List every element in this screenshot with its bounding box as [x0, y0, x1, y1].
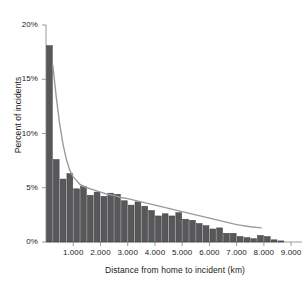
- plot-area: [0, 0, 308, 284]
- y-tick-label: 10%: [12, 129, 38, 138]
- y-tick-label: 20%: [12, 20, 38, 29]
- histogram-chart: Percent of incidents Distance from home …: [0, 0, 308, 284]
- y-tick-label: 15%: [12, 74, 38, 83]
- x-tick-label: 9.000: [274, 248, 308, 257]
- y-tick-label: 5%: [12, 183, 38, 192]
- y-tick-label: 0%: [12, 237, 38, 246]
- bars: [47, 46, 284, 242]
- x-axis-title: Distance from home to incident (km): [46, 265, 304, 275]
- y-axis-title: Percent of incidents: [13, 45, 23, 185]
